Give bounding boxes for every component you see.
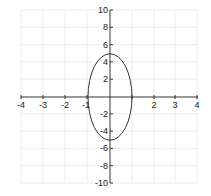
y-tick-label: -2: [100, 109, 108, 119]
y-tick-label: 6: [103, 40, 108, 50]
y-tick-label: 4: [103, 57, 108, 67]
x-tick-label: 3: [172, 100, 177, 110]
y-tick-label: -6: [100, 143, 108, 153]
x-tick-label: 2: [151, 100, 156, 110]
x-tick-label: 4: [194, 100, 199, 110]
y-tick-label: 10: [98, 5, 108, 15]
y-tick-label: -8: [100, 161, 108, 171]
x-tick-label: -3: [39, 100, 47, 110]
chart: -4 -3 -2 -1 2 3 4 10 8 6 4 2 -2 -4 -6 -8…: [0, 0, 211, 196]
x-tick-label: -1: [82, 100, 90, 110]
x-tick-label: -4: [17, 100, 25, 110]
x-tick-label: -2: [61, 100, 69, 110]
y-tick-label: 8: [103, 22, 108, 32]
y-tick-label: -10: [95, 178, 108, 188]
y-tick-label: 2: [103, 74, 108, 84]
y-tick-label: -4: [100, 126, 108, 136]
